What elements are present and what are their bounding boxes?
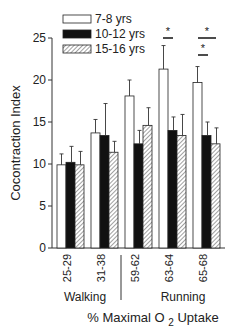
legend: 7-8 yrs10-12 yrs15-16 yrs <box>63 12 145 56</box>
significance-star: * <box>166 25 171 37</box>
legend-swatch <box>63 45 91 53</box>
x-tick-label: 31-38 <box>95 254 107 282</box>
x-tick-label: 65-68 <box>197 254 209 282</box>
bar <box>125 96 134 248</box>
y-tick-label: 5 <box>39 199 46 213</box>
y-tick-label: 0 <box>39 241 46 255</box>
significance-star: * <box>205 25 210 37</box>
bar <box>177 135 186 248</box>
y-tick-label: 20 <box>33 73 47 87</box>
x-tick-label: 59-62 <box>129 254 141 282</box>
bar <box>100 135 109 248</box>
legend-label: 7-8 yrs <box>95 12 132 26</box>
bar <box>159 69 168 248</box>
legend-label: 15-16 yrs <box>95 42 145 56</box>
y-tick-label: 25 <box>33 31 47 45</box>
legend-label: 10-12 yrs <box>95 27 145 41</box>
x-tick-label: 25-29 <box>61 254 73 282</box>
bar <box>91 133 100 248</box>
y-tick-label: 10 <box>33 157 47 171</box>
group-label-walking: Walking <box>64 290 106 304</box>
group-label-running: Running <box>161 290 206 304</box>
bar <box>143 125 152 248</box>
x-tick-label: 63-64 <box>163 254 175 282</box>
bars: *** <box>57 25 220 248</box>
bar <box>109 152 118 248</box>
bar <box>168 130 177 248</box>
bar-chart: 0510152025 *** 7-8 yrs10-12 yrs15-16 yrs… <box>0 0 236 335</box>
y-tick-label: 15 <box>33 115 47 129</box>
bar <box>57 165 66 248</box>
bar <box>211 144 220 248</box>
bar <box>202 135 211 248</box>
bar <box>193 83 202 248</box>
bar <box>75 165 84 248</box>
bar <box>66 162 75 248</box>
significance-star: * <box>201 42 206 54</box>
x-axis-label: % Maximal O 2 Uptake <box>87 310 218 328</box>
legend-swatch <box>63 15 91 23</box>
bar <box>134 144 143 248</box>
legend-swatch <box>63 30 91 38</box>
y-axis-label: Cocontraction Index <box>8 85 23 201</box>
